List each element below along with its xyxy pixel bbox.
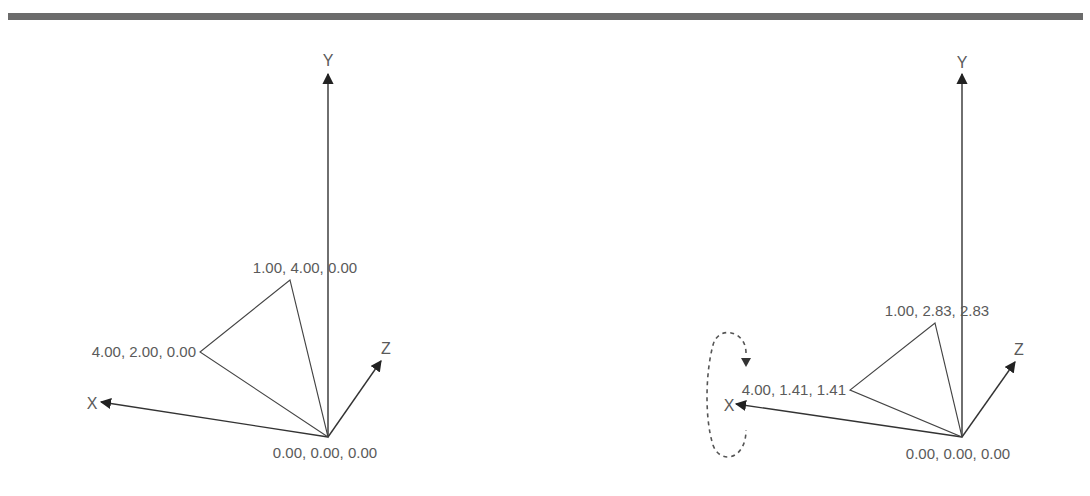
z-axis-label: Z (1014, 341, 1024, 358)
vertex-label-origin: 0.00, 0.00, 0.00 (906, 445, 1010, 462)
vertex-label-left: 4.00, 2.00, 0.00 (92, 343, 196, 360)
x-axis-arrow (101, 402, 328, 437)
rotation-arrowhead-icon (741, 358, 751, 367)
y-axis-label: Y (323, 52, 334, 69)
diagram-original: Y X Z 0.00, 0.00, 0.00 1.00, 4.00, 0.00 … (87, 52, 391, 461)
x-axis-arrow (736, 404, 962, 437)
y-axis-label: Y (957, 54, 968, 71)
vertex-label-left: 4.00, 1.41, 1.41 (742, 381, 846, 398)
rotation-diagram-canvas: Y X Z 0.00, 0.00, 0.00 1.00, 4.00, 0.00 … (0, 0, 1090, 496)
vertex-label-origin: 0.00, 0.00, 0.00 (273, 444, 377, 461)
x-axis-label: X (724, 397, 735, 414)
vertex-label-top: 1.00, 2.83, 2.83 (885, 302, 989, 319)
triangle-shape (850, 323, 962, 437)
z-axis-label: Z (381, 340, 391, 357)
z-axis-arrow (328, 361, 381, 437)
x-axis-label: X (87, 395, 98, 412)
vertex-label-top: 1.00, 4.00, 0.00 (253, 259, 357, 276)
z-axis-arrow (962, 362, 1015, 437)
rotation-indicator-ellipse (707, 333, 746, 457)
diagram-rotated: Y X Z 0.00, 0.00, 0.00 1.00, 2.83, 2.83 … (707, 54, 1024, 462)
triangle-shape (200, 280, 328, 437)
